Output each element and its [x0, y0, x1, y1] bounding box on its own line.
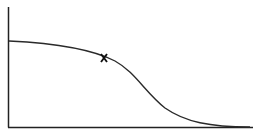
curve-diagram: [0, 0, 265, 138]
decreasing-curve: [9, 41, 250, 127]
x-marker-icon: [101, 54, 107, 62]
diagram-canvas: [0, 0, 265, 138]
